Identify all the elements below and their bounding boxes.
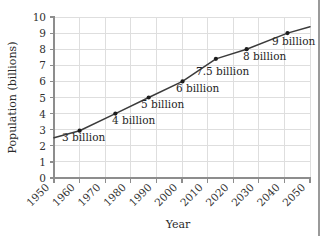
y-axis-title: Population (billions) <box>6 42 19 154</box>
annotation-4-billion: 4 billion <box>112 114 155 126</box>
x-tick-label-2010: 2010 <box>178 181 205 208</box>
x-axis-tick-labels: 1950 1960 1970 1980 1990 2000 2010 2020 … <box>24 181 307 208</box>
page-edge-rule <box>318 0 320 236</box>
x-tick-label-2040: 2040 <box>254 181 281 208</box>
annotation-8-billion: 8 billion <box>243 50 286 62</box>
y-tick-label-6: 6 <box>39 75 46 87</box>
y-tick-label-3: 3 <box>39 124 46 136</box>
y-tick-label-4: 4 <box>39 108 46 120</box>
y-tick-label-8: 8 <box>39 43 46 55</box>
data-point-7.5-billion <box>214 57 218 61</box>
x-tick-label-1950: 1950 <box>24 181 51 208</box>
y-tick-label-5: 5 <box>39 92 46 104</box>
y-axis-tick-labels: 10 9 8 7 6 5 4 3 2 1 0 <box>33 11 47 184</box>
annotation-6-billion: 6 billion <box>176 82 219 94</box>
data-point-annotations: 3 billion 4 billion 5 billion 6 billion … <box>62 35 315 143</box>
x-tick-label-1960: 1960 <box>50 181 77 208</box>
x-tick-label-2020: 2020 <box>203 181 230 208</box>
y-tick-label-7: 7 <box>39 59 46 71</box>
y-tick-label-10: 10 <box>33 11 46 23</box>
x-tick-label-1970: 1970 <box>75 181 102 208</box>
x-tick-label-1980: 1980 <box>101 181 128 208</box>
x-tick-label-1990: 1990 <box>126 181 153 208</box>
y-tick-label-1: 1 <box>39 156 46 168</box>
x-tick-label-2000: 2000 <box>152 181 179 208</box>
annotation-9-billion: 9 billion <box>272 35 315 47</box>
annotation-5-billion: 5 billion <box>141 98 184 110</box>
population-growth-chart-figure: 10 9 8 7 6 5 4 3 2 1 0 1950 1960 1970 19… <box>0 0 330 236</box>
x-tick-label-2030: 2030 <box>229 181 256 208</box>
x-axis-title: Year <box>165 218 191 231</box>
population-line-chart: 10 9 8 7 6 5 4 3 2 1 0 1950 1960 1970 19… <box>0 0 330 236</box>
x-tick-label-2050: 2050 <box>280 181 307 208</box>
annotation-7.5-billion: 7.5 billion <box>196 65 250 77</box>
annotation-3-billion: 3 billion <box>62 131 105 143</box>
y-tick-label-2: 2 <box>39 140 46 152</box>
y-tick-label-9: 9 <box>39 27 46 39</box>
